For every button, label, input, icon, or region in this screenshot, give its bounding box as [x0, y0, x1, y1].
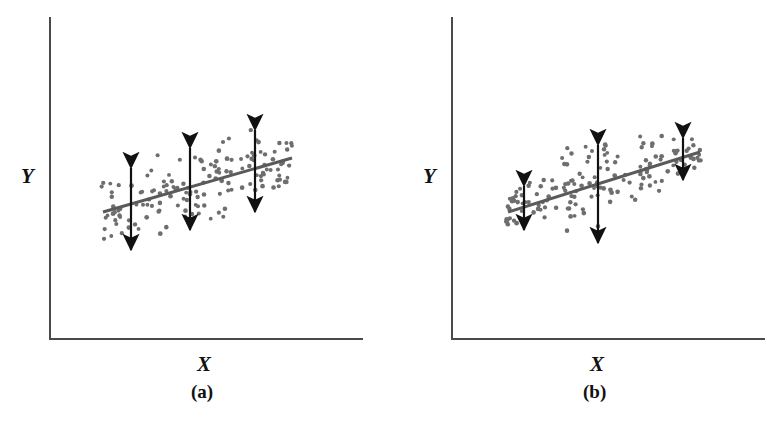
data-point [209, 163, 213, 167]
data-point [515, 200, 520, 205]
data-point [699, 158, 703, 162]
data-point [510, 199, 515, 204]
data-point [277, 174, 281, 178]
data-point [271, 185, 276, 190]
data-point [181, 182, 186, 187]
data-point [657, 189, 661, 193]
data-point [640, 145, 644, 149]
data-point [672, 137, 676, 141]
data-point [604, 144, 608, 148]
data-point [660, 179, 664, 183]
panel-a: Y X (a) [0, 0, 383, 421]
data-point [641, 176, 646, 181]
data-point [145, 174, 149, 178]
data-point [110, 190, 114, 194]
data-point [240, 166, 244, 170]
data-point [111, 211, 116, 216]
data-point [616, 154, 620, 158]
data-point [504, 217, 508, 221]
panel-caption-a: (a) [191, 382, 213, 401]
data-point [109, 234, 113, 238]
data-point [638, 165, 642, 169]
data-point [133, 222, 137, 226]
data-point [259, 178, 263, 182]
data-point [158, 201, 163, 206]
data-point [183, 215, 187, 219]
data-point [531, 210, 536, 215]
axes-a [50, 18, 362, 339]
data-point [581, 211, 586, 216]
data-point [250, 151, 254, 155]
data-point [269, 168, 273, 172]
data-point [687, 146, 691, 150]
data-point [103, 227, 107, 231]
data-point [114, 222, 118, 226]
data-point [554, 206, 559, 211]
data-point [158, 231, 163, 236]
data-point [676, 171, 681, 176]
figure-root: Y X (a) Y X (b) [0, 0, 767, 421]
data-point [627, 180, 631, 184]
data-point [283, 180, 288, 185]
data-point [229, 188, 233, 192]
panel-caption-b: (b) [583, 382, 606, 401]
data-point [259, 150, 263, 154]
data-point [110, 195, 115, 200]
data-point [587, 155, 591, 159]
data-point [156, 153, 160, 157]
data-point [584, 145, 588, 149]
data-point [106, 214, 110, 218]
data-point [209, 217, 213, 221]
data-point [240, 185, 245, 190]
data-point [286, 176, 290, 180]
data-point [141, 203, 145, 207]
data-point [514, 190, 518, 194]
data-point [256, 140, 261, 145]
data-point [665, 169, 670, 174]
data-point [214, 159, 219, 164]
data-point [690, 137, 694, 141]
data-point [284, 141, 288, 145]
data-point [162, 180, 166, 184]
data-point [605, 167, 609, 171]
data-point [245, 154, 249, 158]
data-point [613, 160, 617, 164]
data-point [569, 194, 573, 198]
data-point [262, 172, 266, 176]
data-point [644, 158, 648, 162]
data-point [543, 205, 547, 209]
data-point [593, 175, 597, 179]
data-point [535, 192, 539, 196]
data-point [273, 150, 277, 154]
data-point [659, 154, 664, 159]
data-point [229, 158, 233, 162]
data-point [605, 159, 609, 163]
scatter-plot-b [384, 0, 767, 421]
data-point [197, 211, 201, 215]
data-point [566, 206, 570, 210]
data-point [182, 197, 186, 201]
data-point [633, 197, 638, 202]
data-point [150, 189, 154, 193]
data-point [287, 163, 291, 167]
data-point [217, 171, 221, 175]
data-point [207, 174, 212, 179]
data-point [630, 194, 634, 198]
data-point [622, 178, 626, 182]
data-point [639, 182, 643, 186]
data-point [590, 149, 594, 153]
data-point [573, 202, 577, 206]
data-point [565, 228, 570, 233]
data-point [565, 162, 570, 167]
data-point [659, 134, 664, 139]
data-point [108, 182, 112, 186]
data-point [164, 225, 169, 230]
data-point [285, 147, 290, 152]
data-point [202, 203, 206, 207]
data-point [566, 181, 571, 186]
data-point [113, 218, 117, 222]
data-point [225, 156, 230, 161]
data-point [176, 203, 180, 207]
data-point [223, 206, 228, 211]
data-point [102, 237, 106, 241]
